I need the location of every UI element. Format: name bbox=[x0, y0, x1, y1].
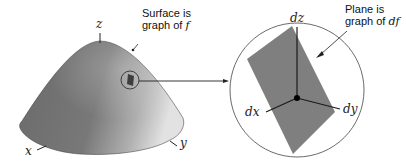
axis-z-label: z bbox=[96, 18, 102, 30]
surface-label-var: f bbox=[185, 19, 189, 32]
axis-y-label: y bbox=[180, 137, 187, 149]
plane-label-line1: Plane is bbox=[345, 3, 400, 15]
surface-graph-of-f bbox=[20, 41, 184, 154]
axis-dx-label: dx bbox=[245, 106, 259, 118]
origin-point bbox=[294, 95, 300, 101]
plane-label-line2: graph of df bbox=[345, 15, 400, 28]
axis-dz-label: dz bbox=[290, 12, 304, 24]
plane-label-var: df bbox=[388, 15, 399, 28]
surface-label-line1: Surface is bbox=[142, 7, 191, 19]
surface-label-line2: graph of f bbox=[142, 19, 191, 32]
axis-x-label: x bbox=[25, 145, 32, 157]
x-axis-tick bbox=[37, 146, 46, 150]
surface-label: Surface is graph of f bbox=[142, 7, 191, 32]
y-axis-tick bbox=[170, 141, 177, 146]
axis-dy-label: dy bbox=[343, 103, 357, 115]
plane-label: Plane is graph of df bbox=[345, 3, 400, 28]
